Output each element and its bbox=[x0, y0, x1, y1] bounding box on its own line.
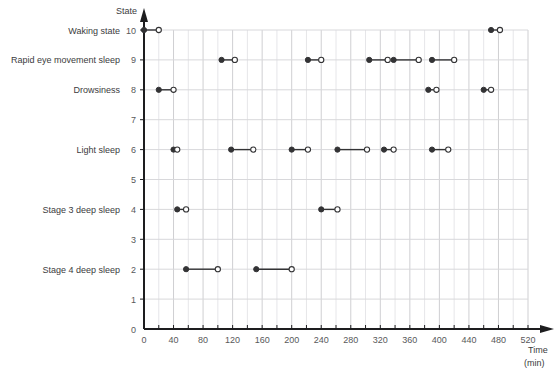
y-axis-state-labels: Waking stateRapid eye movement sleepDrow… bbox=[11, 26, 121, 275]
segment-end-marker bbox=[305, 147, 310, 152]
x-axis-tick-label: 160 bbox=[255, 335, 270, 345]
data-segment bbox=[289, 147, 310, 152]
x-axis-tick-label: 80 bbox=[198, 335, 208, 345]
y-axis-arrow bbox=[140, 8, 148, 22]
y-axis-tick-label: 7 bbox=[131, 115, 136, 125]
segment-start-marker bbox=[254, 267, 259, 272]
y-axis-title: State bbox=[116, 6, 137, 16]
segment-start-marker bbox=[488, 27, 493, 32]
y-axis-state-label: Drowsiness bbox=[73, 85, 120, 95]
data-segment bbox=[141, 27, 161, 32]
segment-end-marker bbox=[488, 87, 493, 92]
y-axis bbox=[140, 8, 148, 329]
data-segment bbox=[429, 57, 456, 62]
y-axis-state-label: Stage 4 deep sleep bbox=[42, 265, 120, 275]
y-axis-tick-label-zero: 0 bbox=[131, 325, 136, 335]
data-segment bbox=[426, 87, 439, 92]
segment-end-marker bbox=[335, 207, 340, 212]
segment-start-marker bbox=[429, 57, 434, 62]
y-axis-tick-label: 5 bbox=[131, 175, 136, 185]
segment-end-marker bbox=[391, 147, 396, 152]
y-axis-state-label: Light sleep bbox=[76, 145, 120, 155]
segment-end-marker bbox=[232, 57, 237, 62]
y-axis-tick-label: 2 bbox=[131, 265, 136, 275]
segment-end-marker bbox=[156, 27, 161, 32]
data-segment bbox=[229, 147, 256, 152]
segment-end-marker bbox=[446, 147, 451, 152]
y-axis-tick-label: 8 bbox=[131, 85, 136, 95]
y-axis-state-label: Stage 3 deep sleep bbox=[42, 205, 120, 215]
y-axis-tick-label: 10 bbox=[126, 26, 136, 36]
data-segment bbox=[171, 147, 180, 152]
chart-canvas: 123456789100 040801201602002402803203604… bbox=[0, 0, 560, 371]
segment-start-marker bbox=[381, 147, 386, 152]
x-axis-tick-label: 360 bbox=[402, 335, 417, 345]
x-axis-title-line1: Time bbox=[528, 345, 548, 355]
data-segment bbox=[219, 57, 237, 62]
segment-start-marker bbox=[156, 87, 161, 92]
x-axis-title-line2: (min) bbox=[524, 358, 545, 368]
x-axis-tick-label: 280 bbox=[343, 335, 358, 345]
data-segment bbox=[183, 267, 220, 272]
data-segment bbox=[391, 57, 421, 62]
x-axis-tick-label: 120 bbox=[225, 335, 240, 345]
x-axis-tick-label: 320 bbox=[373, 335, 388, 345]
x-axis-tick-label: 400 bbox=[432, 335, 447, 345]
data-segment bbox=[429, 147, 450, 152]
x-axis-tick-label: 40 bbox=[169, 335, 179, 345]
segment-start-marker bbox=[426, 87, 431, 92]
x-axis-tick-label: 520 bbox=[520, 335, 535, 345]
y-axis-tick-label: 3 bbox=[131, 235, 136, 245]
data-segment bbox=[367, 57, 391, 62]
segment-end-marker bbox=[215, 267, 220, 272]
y-axis-tick-label: 6 bbox=[131, 145, 136, 155]
data-segment bbox=[488, 27, 502, 32]
segment-start-marker bbox=[391, 57, 396, 62]
segment-end-marker bbox=[452, 57, 457, 62]
y-axis-tick-label: 9 bbox=[131, 55, 136, 65]
data-segment bbox=[254, 267, 295, 272]
data-segment bbox=[319, 207, 340, 212]
segment-end-marker bbox=[175, 147, 180, 152]
x-axis-tick-label: 480 bbox=[491, 335, 506, 345]
segment-start-marker bbox=[429, 147, 434, 152]
x-axis-arrow bbox=[540, 325, 554, 333]
data-segment bbox=[481, 87, 494, 92]
x-axis bbox=[144, 325, 554, 333]
data-segment bbox=[156, 87, 176, 92]
segment-start-marker bbox=[219, 57, 224, 62]
segment-end-marker bbox=[434, 87, 439, 92]
segment-start-marker bbox=[141, 27, 146, 32]
data-segment bbox=[305, 57, 323, 62]
segment-end-marker bbox=[171, 87, 176, 92]
segment-start-marker bbox=[319, 207, 324, 212]
x-axis-tick-label: 0 bbox=[141, 335, 146, 345]
y-axis-tick-label: 1 bbox=[131, 295, 136, 305]
segment-start-marker bbox=[305, 57, 310, 62]
segment-end-marker bbox=[251, 147, 256, 152]
segment-start-marker bbox=[481, 87, 486, 92]
x-axis-tick-label: 200 bbox=[284, 335, 299, 345]
segment-end-marker bbox=[183, 207, 188, 212]
x-axis-tick-label: 440 bbox=[461, 335, 476, 345]
x-axis-tick-labels: 04080120160200240280320360400440480520 bbox=[141, 335, 535, 345]
segment-end-marker bbox=[364, 147, 369, 152]
y-axis-state-label: Rapid eye movement sleep bbox=[11, 55, 120, 65]
segment-start-marker bbox=[229, 147, 234, 152]
data-segment bbox=[335, 147, 370, 152]
segment-start-marker bbox=[367, 57, 372, 62]
x-axis-tick-label: 240 bbox=[314, 335, 329, 345]
sleep-stage-chart: 123456789100 040801201602002402803203604… bbox=[0, 0, 560, 371]
segment-start-marker bbox=[335, 147, 340, 152]
segment-start-marker bbox=[289, 147, 294, 152]
y-axis-tick-labels: 123456789100 bbox=[126, 26, 136, 335]
segment-end-marker bbox=[319, 57, 324, 62]
segment-start-marker bbox=[175, 207, 180, 212]
data-segment bbox=[175, 207, 189, 212]
segment-end-marker bbox=[416, 57, 421, 62]
segment-start-marker bbox=[183, 267, 188, 272]
segment-end-marker bbox=[385, 57, 390, 62]
segment-end-marker bbox=[289, 267, 294, 272]
y-axis-tick-label: 4 bbox=[131, 205, 136, 215]
data-segment bbox=[381, 147, 396, 152]
